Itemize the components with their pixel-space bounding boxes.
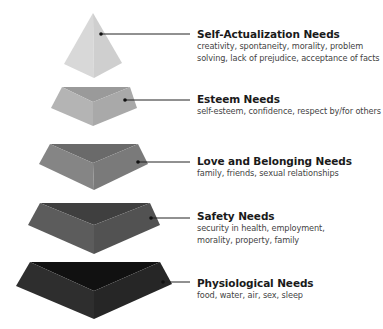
tier-desc-line: solving, lack of prejudice, acceptance o… (197, 53, 379, 65)
tier-desc-line: family, friends, sexual relationships (197, 168, 352, 180)
tier-title: Safety Needs (197, 210, 325, 223)
tier-desc-line: creativity, spontaneity, morality, probl… (197, 41, 379, 53)
dot-safety (149, 216, 153, 220)
self-actualization-left-face (64, 13, 94, 78)
tier-title: Love and Belonging Needs (197, 155, 352, 168)
tier-desc-line: morality, property, family (197, 235, 325, 247)
tier-safety-shape (28, 203, 160, 254)
tier-title: Physiological Needs (197, 277, 313, 290)
tier-desc-line: food, water, air, sex, sleep (197, 290, 313, 302)
tier-desc-line: self-esteem, confidence, respect by/for … (197, 106, 381, 118)
tier-physiological-shape (16, 262, 172, 319)
label-physiological: Physiological Needs food, water, air, se… (197, 277, 313, 302)
self-actualization-right-face (93, 13, 122, 78)
label-self-actualization: Self-Actualization Needs creativity, spo… (197, 28, 379, 64)
tier-desc-line: security in health, employment, (197, 223, 325, 235)
dot-love-belonging (136, 160, 140, 164)
label-love-belonging: Love and Belonging Needs family, friends… (197, 155, 352, 180)
tier-love-belonging-shape (39, 144, 148, 190)
tier-title: Self-Actualization Needs (197, 28, 379, 41)
tier-title: Esteem Needs (197, 93, 381, 106)
label-safety: Safety Needs security in health, employm… (197, 210, 325, 246)
dot-self-actualization (99, 32, 103, 36)
dot-esteem (123, 98, 127, 102)
dot-physiological (161, 280, 165, 284)
label-esteem: Esteem Needs self-esteem, confidence, re… (197, 93, 381, 118)
tier-self-actualization-shape (64, 13, 122, 78)
tier-esteem-shape (51, 87, 137, 126)
